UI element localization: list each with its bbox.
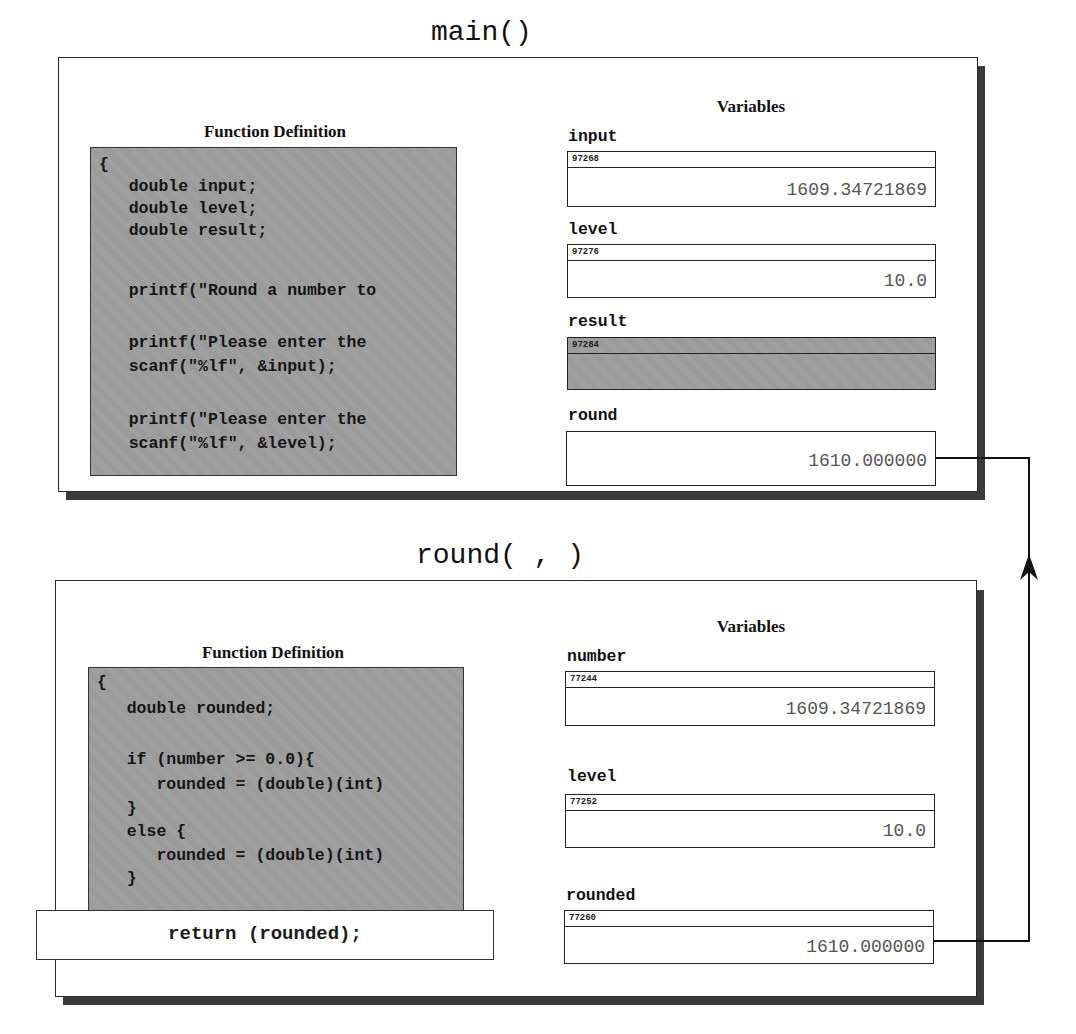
code-line: double level; bbox=[99, 198, 257, 220]
code-line: double result; bbox=[99, 220, 267, 242]
code-line: rounded = (double)(int) bbox=[97, 845, 384, 867]
code-line: printf("Please enter the bbox=[99, 409, 366, 431]
main-code-block: { double input; double level; double res… bbox=[90, 147, 457, 476]
code-line: else { bbox=[97, 821, 186, 843]
return-statement-text: return (rounded); bbox=[168, 923, 362, 945]
var-label-rounded: rounded bbox=[566, 886, 635, 906]
code-line: double rounded; bbox=[97, 698, 275, 720]
var-address: 77260 bbox=[565, 911, 933, 927]
main-function-definition-heading: Function Definition bbox=[90, 122, 460, 142]
arrow-up-icon bbox=[1019, 554, 1039, 580]
main-variables-heading: Variables bbox=[566, 97, 936, 117]
var-box-number: 77244 1609.34721869 bbox=[565, 671, 935, 726]
code-line: scanf("%lf", &input); bbox=[99, 356, 337, 378]
round-variables-heading: Variables bbox=[566, 617, 936, 637]
var-address: 97268 bbox=[568, 152, 935, 168]
round-frame-title: round( , ) bbox=[408, 541, 592, 571]
var-address: 77252 bbox=[566, 795, 934, 811]
code-line: rounded = (double)(int) bbox=[97, 774, 384, 796]
var-label-level: level bbox=[567, 767, 617, 787]
var-address: 77244 bbox=[566, 672, 934, 688]
var-value: 1610.000000 bbox=[567, 449, 927, 473]
connector-vertical bbox=[1028, 458, 1030, 942]
code-line: } bbox=[97, 868, 137, 890]
connector-to-round bbox=[936, 457, 1030, 459]
code-line: { bbox=[97, 672, 107, 694]
code-line: } bbox=[97, 798, 137, 820]
connector-from-rounded bbox=[934, 940, 1030, 942]
round-code-block: { double rounded; if (number >= 0.0){ ro… bbox=[88, 667, 464, 917]
round-function-definition-heading: Function Definition bbox=[88, 643, 458, 663]
code-line: printf("Round a number to bbox=[99, 280, 376, 302]
var-label-number: number bbox=[567, 647, 626, 667]
var-box-input: 97268 1609.34721869 bbox=[567, 151, 936, 207]
var-address: 97284 bbox=[568, 338, 935, 354]
var-label-result: result bbox=[568, 312, 627, 332]
main-frame-title: main() bbox=[423, 18, 540, 48]
var-box-result: 97284 bbox=[567, 337, 936, 390]
var-address: 97276 bbox=[568, 245, 935, 261]
code-line: scanf("%lf", &level); bbox=[99, 433, 337, 455]
var-value: 10.0 bbox=[568, 269, 927, 293]
var-label-input: input bbox=[568, 127, 618, 147]
var-value: 1610.000000 bbox=[565, 935, 925, 959]
code-line: { bbox=[99, 154, 109, 176]
code-line: printf("Please enter the bbox=[99, 332, 366, 354]
return-statement: return (rounded); bbox=[36, 910, 494, 960]
var-value: 1609.34721869 bbox=[568, 178, 927, 202]
var-box-rounded: 77260 1610.000000 bbox=[564, 910, 934, 964]
var-label-round: round bbox=[568, 406, 618, 426]
code-line: if (number >= 0.0){ bbox=[97, 749, 315, 771]
var-box-level: 97276 10.0 bbox=[567, 244, 936, 298]
var-box-round: 1610.000000 bbox=[566, 431, 936, 486]
var-value: 1609.34721869 bbox=[566, 697, 926, 721]
code-line: double input; bbox=[99, 176, 257, 198]
var-box-level: 77252 10.0 bbox=[565, 794, 935, 848]
var-value: 10.0 bbox=[566, 819, 926, 843]
var-label-level: level bbox=[568, 220, 618, 240]
